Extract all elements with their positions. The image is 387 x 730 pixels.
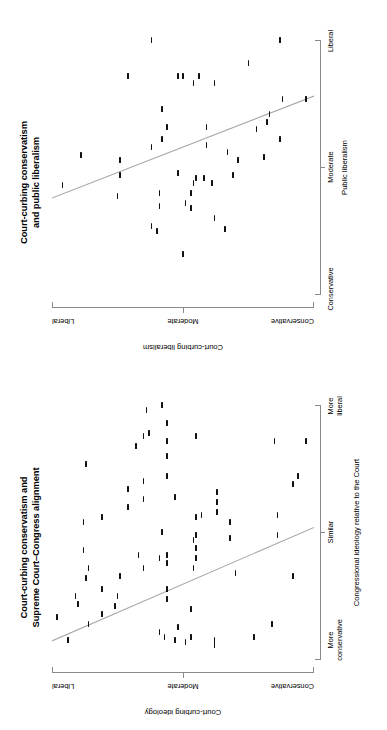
datapoint [143, 496, 145, 502]
datapoint [263, 154, 265, 160]
datapoint [253, 634, 255, 640]
datapoint [166, 124, 168, 130]
datapoint [148, 430, 150, 436]
datapoint [282, 96, 284, 102]
datapoint [256, 126, 258, 132]
datapoint [127, 504, 129, 510]
x-axis-mid-tick-public [320, 167, 325, 168]
datapoint [161, 530, 163, 536]
datapoint [159, 555, 161, 561]
datapoint [151, 37, 153, 43]
y-axis-bottom-cap-public [313, 302, 314, 308]
panel-congress: Court-curbing conservatism and Supreme C… [0, 365, 387, 730]
datapoint [266, 119, 268, 125]
datapoint [177, 170, 179, 176]
datapoint [127, 73, 129, 79]
datapoint [159, 190, 161, 196]
y-tick-label-moderate-congress: Moderate [167, 682, 198, 691]
datapoint [80, 152, 82, 158]
datapoint [277, 532, 279, 538]
panel-congress-title: Court-curbing conservatism and Supreme C… [18, 365, 41, 730]
datapoint [161, 106, 163, 112]
datapoint [114, 603, 116, 609]
datapoint [232, 172, 234, 178]
datapoint [143, 565, 145, 571]
datapoint [185, 639, 187, 645]
datapoint [229, 535, 231, 541]
datapoint [279, 37, 281, 43]
datapoint [195, 532, 197, 538]
datapoint [143, 479, 145, 485]
x-axis-title-public: Public liberalism [340, 40, 349, 295]
datapoint [166, 473, 168, 479]
datapoint [248, 60, 250, 66]
y-axis-top-cap-congress [52, 667, 53, 673]
x-tick-label-similar-congress: Similar [326, 506, 335, 558]
x-tick-label-more-liberal-congress: More liberal [326, 380, 344, 432]
datapoint [117, 593, 119, 599]
datapoint [146, 407, 148, 413]
x-tick-label-moderate-public: Moderate [326, 141, 335, 193]
datapoint [274, 438, 276, 444]
datapoint [190, 205, 192, 211]
datapoint [85, 461, 87, 467]
datapoint [151, 223, 153, 229]
datapoint [119, 157, 121, 163]
datapoint [161, 402, 163, 408]
panel-congress-title-line1: Court-curbing conservatism and [18, 365, 30, 730]
datapoint [166, 586, 168, 592]
datapoint [174, 494, 176, 500]
panel-public-title: Court-curbing conservatism and public li… [18, 0, 41, 365]
datapoint [88, 621, 90, 627]
y-axis-title-congress: Court-curbing ideology [145, 708, 221, 717]
datapoint [211, 180, 213, 186]
datapoint [195, 433, 197, 439]
datapoint [206, 142, 208, 148]
datapoint [166, 596, 168, 602]
datapoint [201, 512, 203, 518]
datapoint [224, 226, 226, 232]
y-tick-label-liberal-public: Liberal [52, 317, 74, 326]
y-tick-label-liberal-congress: Liberal [52, 682, 74, 691]
datapoint [235, 570, 237, 576]
datapoint [190, 606, 192, 612]
datapoint [138, 552, 140, 558]
y-axis-mid-tick-public [183, 308, 184, 313]
datapoint [227, 149, 229, 155]
datapoint [292, 573, 294, 579]
datapoint [297, 473, 299, 479]
datapoint [193, 180, 195, 186]
datapoint [156, 228, 158, 234]
y-tick-label-moderate-public: Moderate [167, 317, 198, 326]
datapoint [216, 509, 218, 515]
x-tick-label-more-conservative-congress: More conservative [326, 612, 344, 668]
datapoint [271, 621, 273, 627]
datapoint [127, 486, 129, 492]
datapoint [305, 438, 307, 444]
datapoint [203, 175, 205, 181]
datapoint [195, 514, 197, 520]
datapoint [166, 438, 168, 444]
plot-area-public [52, 40, 314, 295]
x-axis-left-cap-public [315, 294, 321, 295]
datapoint [88, 565, 90, 571]
x-tick-label-liberal-public: Liberal [326, 17, 335, 65]
y-axis-title-public: Court-curbing liberalism [143, 343, 223, 352]
datapoint [159, 203, 161, 209]
datapoint [177, 73, 179, 79]
x-axis-left-cap-congress [315, 659, 321, 660]
x-axis-right-cap-public [315, 40, 321, 41]
datapoint [83, 547, 85, 553]
datapoint [166, 552, 168, 558]
y-axis-top-cap-public [52, 302, 53, 308]
datapoint [193, 565, 195, 571]
datapoint [195, 555, 197, 561]
datapoint [182, 251, 184, 257]
datapoint [166, 560, 168, 566]
datapoint [269, 111, 271, 117]
datapoint [193, 80, 195, 86]
datapoint [237, 157, 239, 163]
datapoint [214, 80, 216, 86]
datapoint [193, 537, 195, 543]
datapoint [214, 216, 216, 222]
